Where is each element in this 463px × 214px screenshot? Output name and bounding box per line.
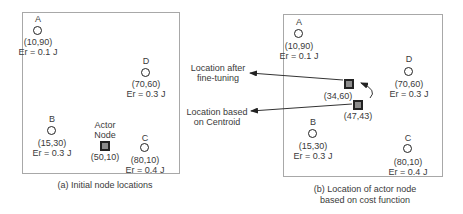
arrow-move-curve bbox=[361, 83, 373, 98]
arrow-finetune bbox=[250, 73, 343, 80]
arrow-centroid bbox=[251, 104, 352, 111]
arrows-layer bbox=[0, 0, 463, 214]
